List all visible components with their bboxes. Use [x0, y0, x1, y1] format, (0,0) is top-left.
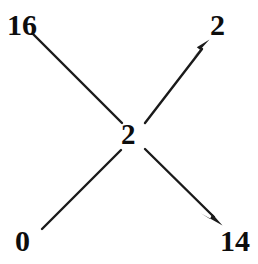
diagram-canvas: 16 2 2 0 14 — [0, 0, 258, 264]
node-label-output-14: 14 — [220, 226, 250, 256]
edge-out-14 — [145, 149, 214, 217]
node-label-center: 2 — [121, 120, 136, 149]
node-label-output-2: 2 — [210, 10, 225, 40]
edge-in-0 — [42, 150, 121, 229]
edge-out-2 — [145, 49, 202, 123]
edge-in-16 — [33, 34, 122, 123]
node-label-input-0: 0 — [15, 226, 30, 256]
node-label-input-16: 16 — [7, 10, 37, 40]
